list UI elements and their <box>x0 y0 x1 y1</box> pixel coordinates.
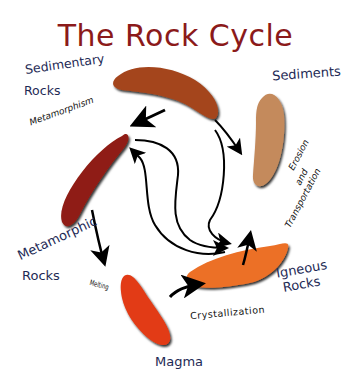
label-magma: Magma <box>155 354 203 369</box>
sediments-shape <box>253 94 284 187</box>
label-sedimentary-rocks-line2: Rocks <box>24 83 60 98</box>
arrow-magma-to-igneous <box>170 284 200 297</box>
rock-cycle-diagram: The Rock Cycle <box>0 0 351 382</box>
sedimentary-rocks-shape <box>113 67 218 119</box>
igneous-rocks-shape <box>187 243 289 288</box>
metamorphic-rocks-shape <box>61 134 128 226</box>
arrow-sedimentary-to-metamorphic <box>135 110 165 124</box>
magma-shape <box>121 275 171 345</box>
arrow-igneous-loop-1 <box>209 130 228 243</box>
